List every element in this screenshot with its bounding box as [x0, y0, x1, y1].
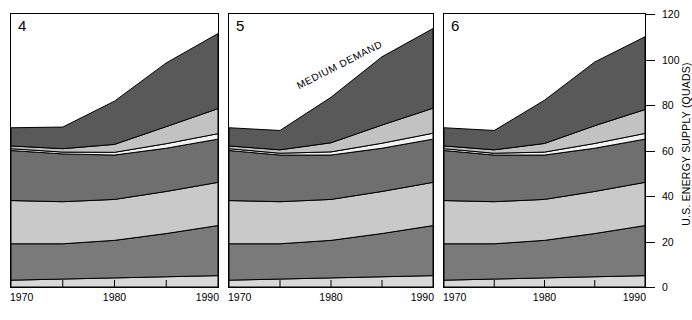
- y-axis: 020406080100120 U.S. ENERGY SUPPLY (QUAD…: [646, 0, 678, 320]
- y-tick-label-120: 120: [662, 8, 680, 20]
- panel-4-areas: [11, 14, 218, 287]
- panel-5-plot: MEDIUM DEMAND: [229, 14, 433, 287]
- panel-6-plot: [444, 14, 645, 287]
- panel-5-areas: [229, 14, 433, 287]
- y-tick-mark-80: [646, 105, 655, 106]
- panel-4: 4: [10, 13, 219, 288]
- x-tick-label-1970: 1970: [443, 291, 466, 303]
- panel-4-number: 4: [18, 18, 26, 33]
- x-tick-label-1990: 1990: [196, 291, 219, 303]
- panel-6: 6: [443, 13, 646, 288]
- x-tick-label-1970: 1970: [10, 291, 33, 303]
- x-axis-panel-6: 197019801990: [443, 291, 646, 309]
- y-tick-label-60: 60: [662, 145, 674, 157]
- y-tick-label-100: 100: [662, 54, 680, 66]
- y-axis-title: U.S. ENERGY SUPPLY (QUADS): [680, 54, 692, 234]
- y-tick-mark-120: [646, 14, 655, 15]
- y-tick-mark-40: [646, 196, 655, 197]
- x-tick-label-1990: 1990: [411, 291, 434, 303]
- y-tick-mark-0: [646, 287, 655, 288]
- panel-6-areas: [444, 14, 645, 287]
- x-tick-label-1990: 1990: [623, 291, 646, 303]
- panel-5-number: 5: [236, 18, 244, 33]
- x-tick-label-1980: 1980: [319, 291, 342, 303]
- y-tick-label-40: 40: [662, 190, 674, 202]
- panel-5: MEDIUM DEMAND 5: [228, 13, 434, 288]
- y-tick-label-0: 0: [662, 281, 668, 293]
- x-axis-panel-4: 197019801990: [10, 291, 219, 309]
- x-tick-label-1980: 1980: [533, 291, 556, 303]
- panel-6-number: 6: [451, 18, 459, 33]
- x-axis-panel-5: 197019801990: [228, 291, 434, 309]
- y-tick-mark-60: [646, 151, 655, 152]
- panel-4-plot: [11, 14, 218, 287]
- y-tick-mark-100: [646, 60, 655, 61]
- x-tick-label-1980: 1980: [103, 291, 126, 303]
- y-tick-label-20: 20: [662, 236, 674, 248]
- y-tick-label-80: 80: [662, 99, 674, 111]
- y-tick-mark-20: [646, 242, 655, 243]
- x-tick-label-1970: 1970: [228, 291, 251, 303]
